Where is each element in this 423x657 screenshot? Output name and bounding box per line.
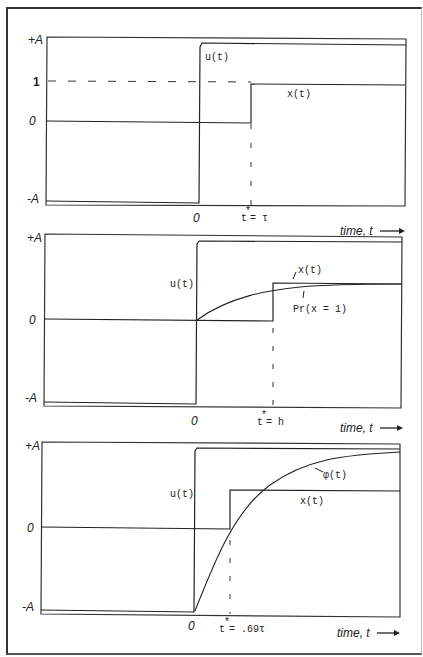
time-axis-label: time, t (337, 626, 370, 640)
pr-label: Pr(x = 1) (293, 304, 347, 315)
figure-canvas: +A 1 0 -A u(t) x(t) 0 t * = τ time, t +A… (0, 0, 423, 657)
x-label-zero: 0 (193, 211, 200, 225)
y-label-zero: 0 (27, 521, 34, 535)
phi-pointer (315, 468, 323, 472)
x-curve (44, 283, 402, 321)
u-curve (44, 241, 402, 404)
u-label: u(t) (170, 489, 194, 500)
y-label-minus-a: -A (25, 391, 37, 405)
time-axis-label: time, t (340, 224, 373, 238)
y-label-zero: 0 (29, 114, 36, 128)
arrowhead-icon (397, 425, 403, 431)
y-label-plus-a: +A (25, 439, 40, 453)
y-label-plus-a: +A (27, 231, 42, 245)
level-one-dashed-line (48, 81, 251, 82)
pr-pointer (303, 291, 304, 298)
x-label-tstar-value: = τ (250, 213, 268, 224)
x-label: x(t) (287, 89, 311, 100)
x-pointer (293, 272, 296, 279)
x-curve (41, 490, 400, 529)
x-label: x(t) (300, 496, 324, 507)
panel-3: +A 0 -A u(t) x(t) φ(t) 0 t * = .69τ time… (22, 439, 400, 640)
phi-label: φ(t) (323, 470, 347, 481)
u-label: u(t) (170, 279, 194, 290)
panel-3-box (41, 442, 400, 617)
x-label-tstar-value: = .69τ (229, 624, 265, 635)
x-label-zero: 0 (191, 414, 198, 428)
x-label-zero: 0 (188, 619, 195, 633)
panel-2: +A 0 -A u(t) x(t) Pr(x = 1) 0 t * = h ti… (25, 231, 403, 435)
x-curve (46, 84, 405, 123)
y-label-zero: 0 (29, 313, 36, 327)
arrowhead-icon (394, 630, 400, 636)
arrowhead-icon (399, 228, 405, 234)
y-label-plus-a: +A (28, 33, 43, 47)
phi-curve (195, 452, 400, 611)
y-label-minus-a: -A (27, 192, 39, 206)
time-axis-label: time, t (340, 421, 373, 435)
y-label-minus-a: -A (22, 600, 34, 614)
y-label-one: 1 (33, 75, 40, 89)
x-label-tstar-value: = h (266, 417, 284, 428)
panel-1: +A 1 0 -A u(t) x(t) 0 t * = τ time, t (27, 33, 406, 238)
x-label: x(t) (298, 265, 322, 276)
u-label: u(t) (205, 52, 229, 63)
